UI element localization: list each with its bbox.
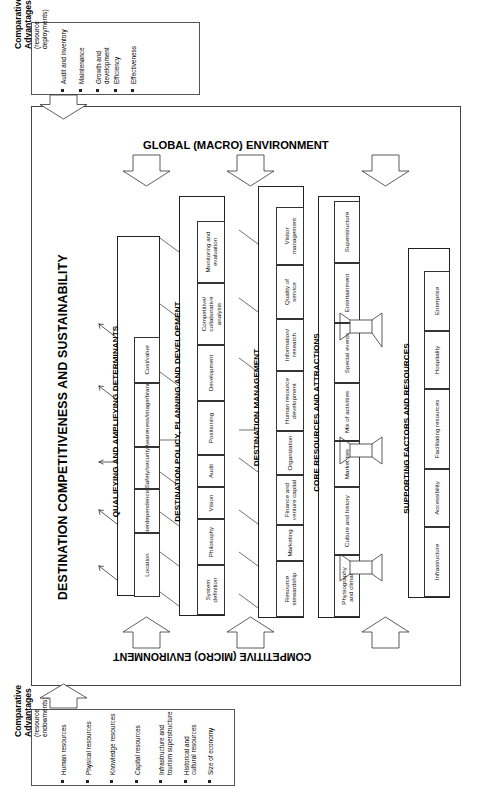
section-management-cell-3[interactable]: Organization (276, 431, 304, 475)
cell-text: Mix of activities (343, 391, 350, 433)
section-core-cell-5[interactable]: Entertainment (334, 263, 360, 323)
section-supporting-cell-1[interactable]: Accessibility (424, 469, 450, 527)
section-management-cell-6[interactable]: Quality ofservice (276, 265, 304, 319)
cell-text: service (290, 282, 297, 302)
comparative-advantages-bottom-panel: Comparative Advantages (resource endowme… (31, 709, 235, 786)
section-core-cell-1[interactable]: Culture and history (334, 487, 360, 555)
cell-text: Safety/security (143, 448, 150, 489)
ca-top-bullet-3 (114, 89, 117, 92)
section-core-cell-2[interactable]: Market ties (334, 441, 360, 487)
macro-environment-label: GLOBAL (MACRO) ENVIRONMENT (143, 139, 329, 151)
cell-text: analysis (215, 303, 222, 325)
ca-top-item-0: Audit and inventory (60, 29, 68, 84)
section-management-cell-0[interactable]: Resourcestewardship (276, 561, 304, 617)
section-core-cell-0[interactable]: Physiographyand climate (334, 555, 360, 617)
section-policy-cell-6[interactable]: Competitive/collaborativeanalysis (197, 283, 225, 345)
section-supporting: SUPPORTING FACTORS AND RESOURCESInfrastr… (408, 248, 450, 598)
section-management-cell-1[interactable]: Marketing (276, 525, 304, 561)
cell-text: definition (211, 578, 218, 603)
ca-top-item-4: Effectiveness (130, 46, 138, 84)
ca-top-title-line2: Advantages (23, 0, 33, 49)
cell-text: Cost/value (143, 345, 150, 374)
ca-top-item-2: Growth and (95, 51, 103, 84)
section-qualifying-cell-0[interactable]: Location (134, 533, 160, 597)
ca-top-title-line1: Comparative (13, 0, 23, 49)
ca-bot-bullet-3 (135, 780, 138, 783)
figure-canvas: Comparative Advantages (resource deploym… (0, 0, 482, 800)
cell-text: Visitor (283, 227, 290, 244)
cell-text: Audit (207, 464, 214, 478)
ca-bot-sub-line1: (resource (33, 709, 41, 737)
section-core: CORE RESOURCES AND ATTRACTIONSPhysiograp… (318, 196, 360, 618)
cell-text: Vision (207, 495, 214, 512)
section-qualifying-cell-4[interactable]: Cost/value (134, 337, 160, 383)
cell-text: Accessibility (433, 481, 440, 515)
cell-text: venture capital (290, 480, 297, 520)
section-policy-cell-5[interactable]: Development (197, 345, 225, 401)
section-core-cell-4[interactable]: Special events (334, 323, 360, 383)
cell-text: Monitoring and (204, 232, 211, 273)
ca-bot-item-3: Capital resources (134, 725, 142, 775)
cell-text: Superstructure (343, 212, 350, 253)
cell-text: Interdependencies (143, 489, 150, 533)
section-core-cell-3[interactable]: Mix of activities (334, 383, 360, 441)
ca-bot-item-4: tourism superstructure (166, 711, 174, 775)
ca-bot-sub-line2: endowments) (41, 697, 49, 737)
micro-environment-label: COMPETITIVE (MICRO) ENVIRONMENT (113, 651, 311, 663)
cell-text: Philosophy (207, 527, 214, 557)
ca-top-bullet-2 (96, 89, 99, 92)
section-policy-cell-3[interactable]: Audit (197, 455, 225, 487)
ca-top-item-1: Maintenance (78, 47, 86, 84)
ca-bot-item-5: cultural resources (190, 725, 198, 775)
ca-top-bullet-1 (79, 89, 82, 92)
ca-bot-item-5: Historical and (183, 736, 191, 775)
section-qualifying-cell-3[interactable]: Awareness/image/brand (134, 383, 160, 447)
cell-text: Physiography (340, 567, 347, 605)
ca-top-item-2: development (103, 47, 111, 84)
section-management-cell-5[interactable]: Information/research (276, 319, 304, 371)
cell-text: Enterprise (433, 287, 440, 315)
ca-top-bullet-4 (131, 89, 134, 92)
cell-text: Location (143, 553, 150, 576)
ca-bot-bullet-1 (86, 780, 89, 783)
ca-bot-bullet-6 (208, 780, 211, 783)
section-policy-cell-1[interactable]: Philosophy (197, 519, 225, 565)
section-label-policy: DESTINATION POLICY, PLANNING AND DEVELOP… (173, 301, 182, 521)
section-qualifying: QUALIFYING AND AMPLIFYING DETERMINANTSLo… (117, 236, 160, 596)
section-core-cell-6[interactable]: Superstructure (334, 201, 360, 263)
cell-text: and climate (347, 570, 354, 602)
section-management-cell-4[interactable]: Human resourcedevelopment (276, 371, 304, 431)
section-qualifying-cell-1[interactable]: Interdependencies (134, 489, 160, 533)
section-policy-cell-0[interactable]: Systemdefinition (197, 565, 225, 615)
cell-text: Positioning (207, 413, 214, 443)
section-supporting-cell-0[interactable]: Infrastructure (424, 527, 450, 597)
section-label-core: CORE RESOURCES AND ATTRACTIONS (312, 333, 321, 492)
section-policy-cell-2[interactable]: Vision (197, 487, 225, 519)
section-label-supporting: SUPPORTING FACTORS AND RESOURCES (402, 343, 411, 514)
section-supporting-cell-4[interactable]: Enterprise (424, 271, 450, 331)
cell-text: stewardship (290, 572, 297, 605)
ca-bot-title-line1: Comparative (13, 685, 23, 737)
section-policy-cell-4[interactable]: Positioning (197, 401, 225, 455)
section-management-cell-7[interactable]: Visitormanagement (276, 207, 304, 265)
cell-text: Infrastructure (433, 544, 440, 580)
ca-bot-bullet-2 (110, 780, 113, 783)
section-policy-cell-7[interactable]: Monitoring andevaluation (197, 221, 225, 283)
page-title: DESTINATION COMPETITIVENESS AND SUSTAINA… (56, 254, 70, 600)
cell-text: development (290, 383, 297, 418)
ca-bot-item-0: Human resources (60, 725, 68, 775)
section-qualifying-cell-2[interactable]: Safety/security (134, 447, 160, 489)
cell-text: Hospitality (433, 346, 440, 375)
section-label-qualifying: QUALIFYING AND AMPLIFYING DETERMINANTS (111, 326, 120, 518)
cell-text: Market ties (343, 449, 350, 479)
cell-text: Culture and history (343, 495, 350, 547)
cell-text: Development (207, 355, 214, 391)
ca-bot-bullet-5 (184, 780, 187, 783)
ca-top-bullet-0 (61, 89, 64, 92)
ca-bot-item-2: Knowledge resources (109, 714, 117, 775)
section-supporting-cell-3[interactable]: Hospitality (424, 331, 450, 389)
cell-text: research (290, 333, 297, 357)
section-supporting-cell-2[interactable]: Facilitating resources (424, 389, 450, 469)
cell-text: evaluation (211, 238, 218, 266)
section-management-cell-2[interactable]: Finance andventure capital (276, 475, 304, 525)
